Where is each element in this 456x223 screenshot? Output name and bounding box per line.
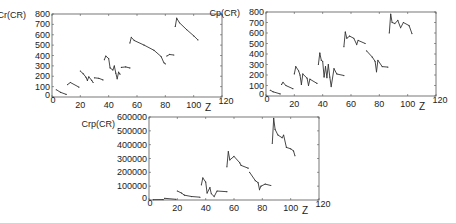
data-point (165, 63, 166, 64)
x-tick-label: 60 (346, 99, 356, 109)
data-point (226, 166, 227, 167)
x-tick-label: 40 (201, 203, 211, 213)
data-series-segment (367, 51, 388, 72)
data-point (309, 79, 310, 80)
data-point (131, 37, 132, 38)
data-point (374, 61, 375, 62)
data-point (78, 87, 79, 88)
data-point (274, 129, 275, 130)
data-point (308, 85, 309, 86)
data-point (92, 82, 93, 83)
y-tick-label: 700 (249, 18, 264, 28)
x-tick-label: 120 (315, 199, 330, 209)
data-point (259, 189, 260, 190)
x-tick-label: 100 (283, 203, 298, 213)
data-point (121, 67, 122, 68)
y-tick-label: 0 (259, 89, 264, 99)
x-axis-label: Z (302, 205, 308, 216)
x-tick-label: 80 (160, 100, 170, 110)
y-tick-label: 500 (249, 39, 264, 49)
data-point (205, 181, 206, 182)
x-tick-label: 60 (229, 203, 239, 213)
data-point (403, 22, 404, 23)
data-point (105, 55, 106, 56)
data-point (377, 60, 378, 61)
data-point (249, 172, 250, 173)
data-point (283, 134, 284, 135)
data-point (129, 42, 130, 43)
data-point (118, 72, 119, 73)
x-tick-label: 40 (318, 99, 328, 109)
data-point (115, 73, 116, 74)
data-point (357, 40, 358, 41)
data-series-segment (294, 67, 317, 86)
data-point (197, 39, 198, 40)
data-point (112, 69, 113, 70)
data-point (181, 192, 182, 193)
y-tick-label: 400 (35, 51, 50, 61)
data-series-segment (250, 172, 271, 189)
data-point (143, 45, 144, 46)
x-tick-label: 20 (289, 99, 299, 109)
data-point (270, 90, 271, 91)
data-point (372, 57, 373, 58)
y-tick-label: 0 (142, 193, 147, 203)
data-point (325, 66, 326, 67)
data-point (175, 199, 176, 200)
data-point (389, 32, 390, 33)
data-series-segment (389, 14, 412, 33)
data-point (336, 73, 337, 74)
y-tick-label: 300 (35, 61, 50, 71)
data-point (233, 156, 234, 157)
data-point (290, 148, 291, 149)
data-point (240, 165, 241, 166)
data-point (280, 93, 281, 94)
y-tick-label: 400000 (117, 140, 147, 150)
data-point (91, 80, 92, 81)
data-point (163, 62, 164, 63)
data-point (376, 71, 377, 72)
data-point (160, 56, 161, 57)
y-tick-label: 500 (35, 40, 50, 50)
chart-cr: 0100200300400500600700800020406080100120… (0, 9, 234, 113)
data-point (177, 190, 178, 191)
data-point (382, 66, 383, 67)
data-point (229, 159, 230, 160)
data-point (272, 91, 273, 92)
y-tick-label: 100000 (117, 181, 147, 191)
data-point (98, 78, 99, 79)
data-point (281, 84, 282, 85)
x-tick-label: 0 (264, 94, 269, 104)
data-point (319, 52, 320, 53)
data-point (294, 73, 295, 74)
data-point (349, 36, 350, 37)
data-point (214, 196, 215, 197)
data-point (391, 22, 392, 23)
data-point (70, 82, 71, 83)
data-point (331, 86, 332, 87)
data-series-segment (270, 90, 280, 94)
data-point (366, 50, 367, 51)
y-tick-label: 600 (35, 30, 50, 40)
y-tick-label: 200 (249, 70, 264, 80)
data-point (298, 70, 299, 71)
plot-frame (149, 117, 319, 200)
data-point (176, 18, 177, 19)
data-point (173, 54, 174, 55)
data-point (125, 66, 126, 67)
data-point (191, 196, 192, 197)
y-tick-label: 800 (249, 7, 264, 17)
data-point (67, 84, 68, 85)
data-point (114, 65, 115, 66)
data-point (211, 193, 212, 194)
data-point (60, 92, 61, 93)
data-point (134, 40, 135, 41)
data-point (88, 76, 89, 77)
y-tick-label: 200 (35, 71, 50, 81)
data-series-segment (272, 118, 295, 155)
y-tick-label: 100 (249, 81, 264, 91)
data-point (209, 187, 210, 188)
data-point (285, 85, 286, 86)
data-series-segment (68, 83, 79, 88)
data-point (306, 78, 307, 79)
